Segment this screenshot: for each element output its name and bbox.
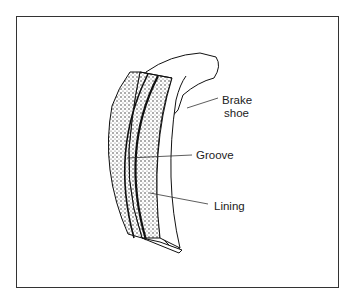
label-groove: Groove: [196, 149, 234, 162]
brake-shoe-drawing: [0, 0, 351, 297]
label-brake-shoe: Brake shoe: [222, 94, 252, 120]
label-brake-line1: Brake: [222, 94, 252, 107]
label-lining: Lining: [214, 200, 245, 213]
label-shoe-line2: shoe: [222, 107, 252, 120]
